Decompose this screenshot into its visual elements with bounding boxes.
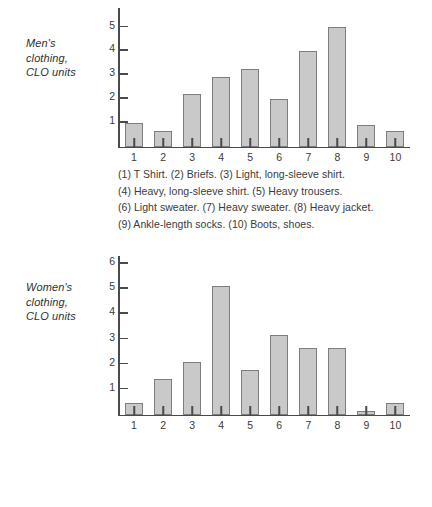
side-label-line: clothing, xyxy=(26,295,110,310)
x-axis-tick-label: 7 xyxy=(305,419,311,432)
side-label-line: CLO units xyxy=(26,65,110,80)
x-axis-tick xyxy=(249,138,251,147)
y-axis-tick-label: 2 xyxy=(109,356,115,369)
bar xyxy=(241,69,259,147)
x-axis-tick-label: 2 xyxy=(160,419,166,432)
caption-line: (6) Light sweater. (7) Heavy sweater. (8… xyxy=(118,199,418,216)
x-axis-tick-label: 8 xyxy=(334,151,340,164)
y-axis-tick-label: 2 xyxy=(109,90,115,103)
bar-group: 12345678910 xyxy=(120,256,411,415)
y-axis-tick-label: 1 xyxy=(109,114,115,127)
bar xyxy=(299,348,317,415)
y-axis-tick: 1 xyxy=(119,121,128,123)
bar-group: 12345678910 xyxy=(120,8,411,147)
chart-y-axis-title-mens: Men's clothing, CLO units xyxy=(26,36,110,80)
y-axis-tick-label: 6 xyxy=(109,255,115,268)
side-label-line: clothing, xyxy=(26,51,110,66)
x-axis-tick xyxy=(133,406,135,415)
caption-mens: (1) T Shirt. (2) Briefs. (3) Light, long… xyxy=(118,166,418,232)
side-label-line: CLO units xyxy=(26,309,110,324)
x-axis-tick xyxy=(191,406,193,415)
y-axis-tick: 4 xyxy=(119,49,128,51)
caption-line: (9) Ankle-length socks. (10) Boots, shoe… xyxy=(118,216,418,233)
x-axis-tick-label: 1 xyxy=(131,151,137,164)
side-label-line: Men's xyxy=(26,36,110,51)
y-axis-tick: 6 xyxy=(119,262,128,264)
bar-slot: 10 xyxy=(381,8,410,147)
x-axis-tick xyxy=(395,138,397,147)
x-axis-tick-label: 5 xyxy=(247,419,253,432)
x-axis-tick-label: 10 xyxy=(390,151,402,164)
x-axis-tick-label: 9 xyxy=(363,419,369,432)
x-axis-tick-label: 3 xyxy=(189,151,195,164)
y-axis-tick: 1 xyxy=(119,388,128,390)
x-axis-tick-label: 8 xyxy=(334,419,340,432)
caption-line: (1) T Shirt. (2) Briefs. (3) Light, long… xyxy=(118,166,418,183)
bar-slot: 7 xyxy=(294,256,323,415)
x-axis-tick xyxy=(395,406,397,415)
y-axis-tick-label: 5 xyxy=(109,19,115,32)
x-axis-tick xyxy=(249,406,251,415)
bar-slot: 3 xyxy=(178,256,207,415)
x-axis-tick xyxy=(133,138,135,147)
bar xyxy=(328,27,346,146)
y-axis-tick-label: 5 xyxy=(109,280,115,293)
x-axis-tick xyxy=(308,406,310,415)
x-axis-tick xyxy=(279,406,281,415)
x-axis-tick-label: 4 xyxy=(218,151,224,164)
x-axis-tick-label: 3 xyxy=(189,419,195,432)
bar xyxy=(270,335,288,414)
bar-slot: 9 xyxy=(352,8,381,147)
bar-slot: 6 xyxy=(265,8,294,147)
y-axis-tick: 2 xyxy=(119,363,128,365)
x-axis-line xyxy=(118,147,410,149)
bar-slot: 3 xyxy=(178,8,207,147)
bar-slot: 4 xyxy=(207,8,236,147)
bar-slot: 5 xyxy=(236,8,265,147)
x-axis-tick-label: 9 xyxy=(363,151,369,164)
x-axis-line xyxy=(118,415,410,417)
bar-slot: 4 xyxy=(207,256,236,415)
y-axis-tick: 2 xyxy=(119,97,128,99)
x-axis-tick-label: 7 xyxy=(305,151,311,164)
y-axis-tick: 5 xyxy=(119,26,128,28)
bar xyxy=(212,286,230,414)
bar-slot: 8 xyxy=(323,8,352,147)
x-axis-tick xyxy=(366,138,368,147)
y-axis-tick-label: 1 xyxy=(109,381,115,394)
x-axis-tick xyxy=(162,406,164,415)
x-axis-tick-label: 2 xyxy=(160,151,166,164)
x-axis-tick xyxy=(366,406,368,415)
x-axis-tick xyxy=(308,138,310,147)
x-axis-tick xyxy=(162,138,164,147)
y-axis-tick: 5 xyxy=(119,287,128,289)
x-axis-tick xyxy=(279,138,281,147)
chart-y-axis-title-womens: Women's clothing, CLO units xyxy=(26,280,110,324)
bar-chart-womens: 12345678910 123456 xyxy=(118,256,410,416)
bar-slot: 2 xyxy=(149,8,178,147)
y-axis-tick-label: 4 xyxy=(109,305,115,318)
bar xyxy=(299,51,317,147)
x-axis-tick-label: 6 xyxy=(276,151,282,164)
x-axis-tick-label: 10 xyxy=(390,419,402,432)
bar-slot: 8 xyxy=(323,256,352,415)
x-axis-tick-label: 5 xyxy=(247,151,253,164)
x-axis-tick xyxy=(337,138,339,147)
x-axis-tick-label: 4 xyxy=(218,419,224,432)
caption-line: (4) Heavy, long-sleeve shirt. (5) Heavy … xyxy=(118,183,418,200)
side-label-line: Women's xyxy=(26,280,110,295)
x-axis-tick xyxy=(220,406,222,415)
y-axis-tick-label: 4 xyxy=(109,42,115,55)
bar-slot: 2 xyxy=(149,256,178,415)
figure-womens-clothing: Women's clothing, CLO units 12345678910 … xyxy=(0,254,432,507)
bar-slot: 7 xyxy=(294,8,323,147)
figure-mens-clothing: Men's clothing, CLO units 12345678910 12… xyxy=(0,0,432,254)
x-axis-tick xyxy=(337,406,339,415)
bar-slot: 9 xyxy=(352,256,381,415)
x-axis-tick xyxy=(220,138,222,147)
bar xyxy=(328,348,346,415)
bar-slot: 5 xyxy=(236,256,265,415)
x-axis-tick-label: 6 xyxy=(276,419,282,432)
y-axis-tick: 4 xyxy=(119,312,128,314)
y-axis-tick: 3 xyxy=(119,73,128,75)
